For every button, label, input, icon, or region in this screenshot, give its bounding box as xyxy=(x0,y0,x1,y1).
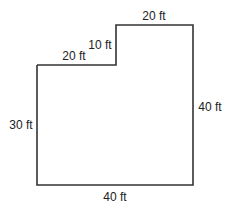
label-bottom: 40 ft xyxy=(103,190,127,204)
label-step-vertical: 10 ft xyxy=(88,38,112,52)
floor-plan-diagram: 20 ft 10 ft 20 ft 30 ft 40 ft 40 ft xyxy=(0,0,233,216)
floor-plan-outline xyxy=(37,25,193,185)
label-top: 20 ft xyxy=(142,9,166,23)
label-step-horizontal: 20 ft xyxy=(62,49,86,63)
label-left: 30 ft xyxy=(9,118,33,132)
label-right: 40 ft xyxy=(198,100,222,114)
